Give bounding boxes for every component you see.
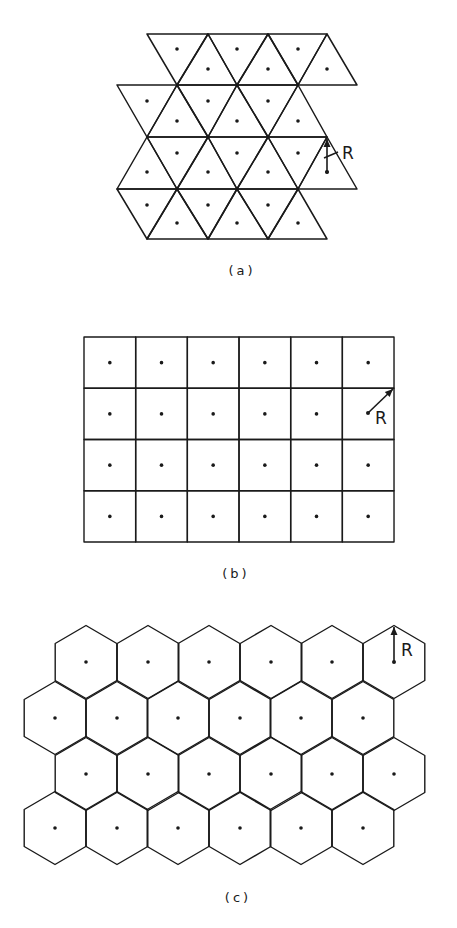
cell-center-dot [361, 716, 365, 720]
triangular-cell [117, 189, 177, 239]
cell-center-dot [366, 411, 370, 415]
cell-center-dot [266, 203, 270, 207]
cell-center-dot [325, 170, 329, 174]
triangular-cell [177, 34, 237, 85]
cell-center-dot [296, 221, 300, 225]
cell-center-dot [160, 361, 164, 365]
triangular-cell [177, 85, 237, 137]
cell-center-dot [160, 515, 164, 519]
cell-center-dot [238, 716, 242, 720]
cell-center-dot [146, 772, 150, 776]
cell-center-dot [315, 463, 319, 467]
cell-center-dot [238, 826, 242, 830]
triangular-cell [147, 137, 208, 189]
triangular-cell [237, 189, 298, 239]
cell-center-dot [235, 119, 239, 123]
cell-center-dot [175, 119, 179, 123]
cell-center-dot [296, 119, 300, 123]
cell-center-dot [235, 221, 239, 225]
triangular-cell [237, 34, 298, 85]
cell-center-dot [175, 151, 179, 155]
cell-center-dot [269, 660, 273, 664]
cell-center-dot [266, 170, 270, 174]
cell-center-dot [115, 826, 119, 830]
triangular-cell [147, 189, 208, 239]
cell-center-dot [84, 772, 88, 776]
cell-center-dot [108, 515, 112, 519]
cell-center-dot [211, 463, 215, 467]
cell-center-dot [108, 361, 112, 365]
triangular-cell [177, 137, 237, 189]
cell-center-dot [296, 151, 300, 155]
cell-center-dot [145, 203, 149, 207]
cell-center-dot [269, 772, 273, 776]
triangular-cell [208, 189, 268, 239]
triangular-cell [268, 189, 327, 239]
panel-c-hexagonal-cells: R [24, 626, 425, 865]
cellular-geometry-figure: R (a) R (b) R (c) [0, 0, 457, 928]
triangular-cell [117, 137, 177, 189]
cell-center-dot [84, 660, 88, 664]
radius-label: R [401, 640, 413, 660]
cell-center-dot [53, 826, 57, 830]
triangular-cell [268, 34, 327, 85]
cell-center-dot [108, 463, 112, 467]
caption-a: (a) [228, 263, 255, 278]
cell-center-dot [266, 67, 270, 71]
cell-center-dot [206, 203, 210, 207]
triangular-cell [237, 137, 298, 189]
cell-center-dot [207, 660, 211, 664]
label-leader-line [324, 152, 338, 158]
cell-center-dot [263, 515, 267, 519]
cell-center-dot [299, 716, 303, 720]
triangular-cell [237, 85, 298, 137]
cell-center-dot [211, 515, 215, 519]
triangular-cell [117, 85, 177, 137]
cell-center-dot [145, 170, 149, 174]
triangular-cell [147, 85, 208, 137]
triangular-cell [268, 137, 327, 189]
cell-center-dot [53, 716, 57, 720]
caption-b: (b) [222, 566, 249, 581]
radius-label: R [342, 143, 354, 163]
cell-center-dot [366, 463, 370, 467]
cell-center-dot [175, 47, 179, 51]
arrowhead-icon [391, 627, 398, 635]
cell-center-dot [366, 515, 370, 519]
cell-center-dot [160, 463, 164, 467]
cell-center-dot [176, 716, 180, 720]
cell-center-dot [299, 826, 303, 830]
triangular-cell [298, 34, 357, 85]
cell-center-dot [315, 412, 319, 416]
triangular-cell [177, 189, 237, 239]
cell-center-dot [266, 99, 270, 103]
cell-center-dot [263, 412, 267, 416]
cell-center-dot [176, 826, 180, 830]
triangular-cell [268, 85, 327, 137]
cell-center-dot [175, 221, 179, 225]
cell-center-dot [206, 170, 210, 174]
cell-center-dot [330, 660, 334, 664]
triangular-cell [208, 85, 268, 137]
cell-center-dot [160, 412, 164, 416]
cell-center-dot [315, 515, 319, 519]
cell-center-dot [211, 361, 215, 365]
cell-center-dot [146, 660, 150, 664]
triangular-cell [147, 34, 208, 85]
cell-center-dot [392, 772, 396, 776]
cell-center-dot [315, 361, 319, 365]
cell-center-dot [235, 151, 239, 155]
cell-center-dot [263, 361, 267, 365]
cell-center-dot [207, 772, 211, 776]
cell-center-dot [392, 660, 396, 664]
radius-label: R [375, 408, 387, 428]
cell-center-dot [296, 47, 300, 51]
panel-b-square-cells: R [84, 337, 394, 542]
cell-center-dot [263, 463, 267, 467]
cell-center-dot [206, 99, 210, 103]
cell-center-dot [211, 412, 215, 416]
cell-center-dot [115, 716, 119, 720]
cell-center-dot [206, 67, 210, 71]
cell-center-dot [108, 412, 112, 416]
cell-center-dot [325, 67, 329, 71]
